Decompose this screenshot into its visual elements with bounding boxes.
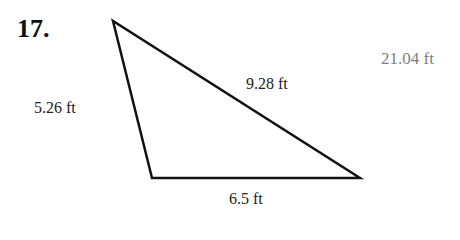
triangle-shape [113,21,360,178]
side-label-left: 5.26 ft [34,99,76,117]
perimeter-answer: 21.04 ft [381,49,434,69]
side-label-hypotenuse: 9.28 ft [246,75,288,93]
side-label-bottom: 6.5 ft [229,190,263,208]
